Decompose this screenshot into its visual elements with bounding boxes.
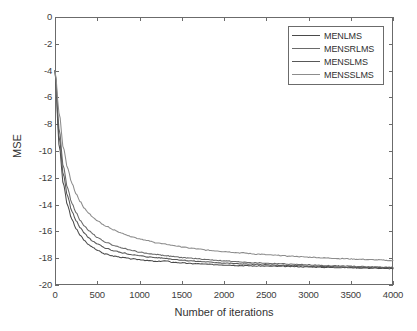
x-axis-tick-labels: 05001000150020002500300035004000	[0, 290, 417, 304]
legend-line-icon	[292, 48, 320, 49]
legend-item-label: MENSRLMS	[324, 44, 374, 54]
legend-line-icon	[292, 61, 320, 62]
y-tick-label: -2	[26, 39, 52, 49]
y-tick-label: -8	[26, 119, 52, 129]
x-tick-label: 2000	[204, 290, 244, 300]
legend-item-mensrlms: MENSRLMS	[289, 42, 383, 55]
legend-line-icon	[292, 35, 320, 36]
legend-item-label: MENLMS	[324, 31, 362, 41]
legend-box: MENLMSMENSRLMSMENSLMSMENSSLMS	[288, 26, 384, 85]
legend-item-label: MENSSLMS	[324, 70, 374, 80]
x-tick-label: 0	[35, 290, 75, 300]
y-tick-label: -6	[26, 92, 52, 102]
y-tick-label: -10	[26, 146, 52, 156]
legend-item-menlms: MENLMS	[289, 29, 383, 42]
series-line-menslms	[55, 71, 393, 269]
legend-item-mensslms: MENSSLMS	[289, 68, 383, 81]
y-tick-label: -20	[26, 280, 52, 290]
x-tick-label: 3000	[289, 290, 329, 300]
legend-item-menslms: MENSLMS	[289, 55, 383, 68]
series-line-menlms	[55, 71, 393, 269]
x-tick-label: 500	[77, 290, 117, 300]
y-axis-tick-labels: 0-2-4-6-8-10-12-14-16-18-20	[22, 0, 52, 331]
x-tick-label: 4000	[373, 290, 413, 300]
series-line-mensslms	[55, 71, 393, 261]
x-tick-label: 1000	[120, 290, 160, 300]
y-tick-label: -12	[26, 173, 52, 183]
y-tick-label: -4	[26, 66, 52, 76]
x-tick-label: 1500	[162, 290, 202, 300]
y-axis-title: MSE	[11, 116, 23, 176]
legend-line-icon	[292, 74, 320, 75]
y-tick-label: -14	[26, 200, 52, 210]
legend-item-label: MENSLMS	[324, 57, 368, 67]
y-tick-label: -18	[26, 253, 52, 263]
x-axis-title: Number of iterations	[55, 306, 393, 318]
y-tick-label: 0	[26, 12, 52, 22]
x-tick-label: 3500	[331, 290, 371, 300]
series-line-mensrlms	[55, 71, 393, 268]
x-tick-label: 2500	[246, 290, 286, 300]
y-tick-label: -16	[26, 226, 52, 236]
mse-convergence-chart: 0-2-4-6-8-10-12-14-16-18-20 050010001500…	[0, 0, 417, 331]
